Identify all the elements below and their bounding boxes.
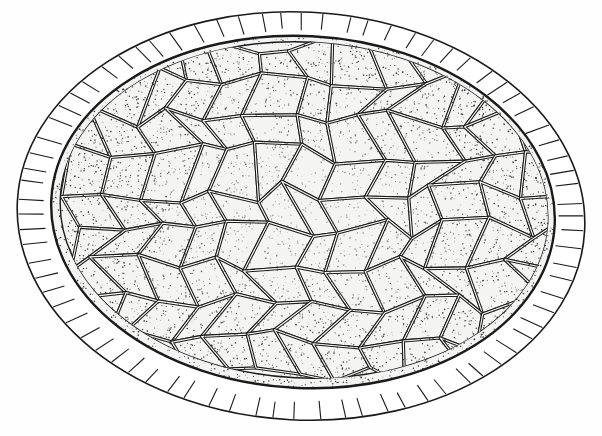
illustration-canvas	[0, 0, 602, 436]
cell-cross-section-drawing	[0, 0, 602, 436]
